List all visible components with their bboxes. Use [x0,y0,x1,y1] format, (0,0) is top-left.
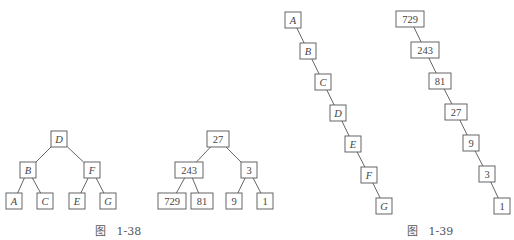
node-label: 729 [164,196,180,207]
tree-node: 3 [479,166,495,182]
tree-edge [429,58,436,73]
degenerate-number-chain: 7292438127931 [396,11,510,214]
node-label: G [380,201,388,212]
tree-node: 27 [207,131,229,147]
tree-edge [36,147,51,162]
tree-edge [96,178,104,193]
tree-node: 81 [429,73,451,89]
node-label: 3 [246,165,251,176]
degenerate-letter-chain: ABCDEFG [285,12,392,214]
tree-node: 729 [396,11,424,27]
tree-node: F [361,167,377,183]
node-label: C [41,196,49,207]
node-label: F [88,165,96,176]
node-label: A [10,196,18,207]
node-label: 9 [231,196,236,207]
tree-edge [226,147,241,162]
tree-node: G [376,198,392,214]
balanced-letter-tree: DBFACEG [6,131,116,209]
node-label: A [289,15,297,26]
node-label: 27 [451,107,462,118]
node-label: C [319,77,327,88]
tree-edge [192,178,198,193]
node-label: F [365,170,373,181]
tree-node: E [345,136,361,152]
node-label: 81 [435,76,446,87]
tree-edge [491,182,499,198]
node-label: D [333,108,342,119]
tree-edge [176,178,184,193]
tree-node: 81 [191,193,213,209]
tree-node: 243 [411,42,439,58]
tree-node: F [84,162,100,178]
node-label: D [54,134,63,145]
node-label: E [349,139,357,150]
node-label: 3 [484,169,489,180]
tree-node: 27 [445,104,467,120]
tree-node: D [51,131,67,147]
node-label: B [25,165,32,176]
node-label: 27 [213,134,224,145]
tree-node: 243 [175,162,203,178]
node-label: B [305,46,312,57]
tree-node: B [300,43,316,59]
tree-edge [196,147,210,162]
tree-node: 1 [494,198,510,214]
node-label: E [73,196,81,207]
node-label: 1 [262,196,267,207]
tree-node: 9 [226,193,242,209]
tree-node: 729 [158,193,186,209]
figure-caption-1-39: 图 1-39 [407,222,453,238]
tree-edge [32,178,40,193]
tree-edge [312,59,319,74]
tree-node: 1 [257,193,273,209]
tree-node: C [315,74,331,90]
tree-edge [297,28,304,43]
tree-edge [238,178,245,193]
node-label: 1 [499,201,504,212]
node-label: 9 [468,138,473,149]
node-label: G [104,196,112,207]
tree-edge [253,178,261,193]
node-label: 243 [417,45,433,56]
tree-node: G [100,193,116,209]
tree-node: B [20,162,36,178]
tree-node: E [69,193,85,209]
tree-edge [475,151,483,166]
tree-edge [18,178,25,193]
tree-edge [68,147,84,162]
diagram-canvas: DBFACEG2724337298191ABCDEFG7292438127931 [0,0,514,240]
balanced-number-tree: 2724337298191 [158,131,273,209]
tree-node: A [285,12,301,28]
tree-edge [460,120,467,135]
tree-edge [327,90,334,105]
tree-edge [414,27,421,42]
tree-node: C [37,193,53,209]
node-label: 81 [197,196,208,207]
tree-node: 9 [463,135,479,151]
node-label: 243 [181,165,197,176]
tree-node: A [6,193,22,209]
node-label: 729 [402,14,418,25]
figure-caption-1-38: 图 1-38 [95,222,141,238]
tree-edge [357,152,365,167]
tree-edge [444,89,452,104]
tree-edge [373,183,380,198]
tree-node: D [330,105,346,121]
tree-edge [81,178,88,193]
tree-edge [342,121,349,136]
tree-node: 3 [241,162,257,178]
